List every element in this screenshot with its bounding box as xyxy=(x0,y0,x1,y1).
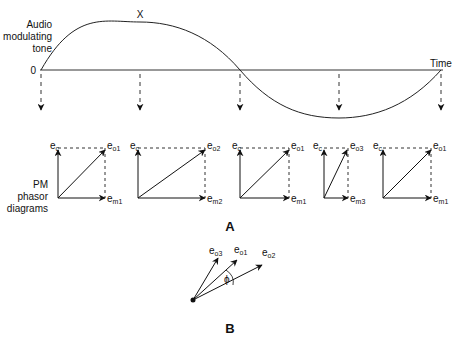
phasor-diagram-1: ec eo1 em1 xyxy=(50,140,122,205)
waveform-label-line-1: Audio xyxy=(26,19,52,30)
pm-phasor-figure: Audio modulating tone 0 Time X PM phasor… xyxy=(0,0,461,343)
phasor-section-label: PM phasor diagrams xyxy=(7,179,49,214)
phasor-diagram-5: ec eo1 em1 xyxy=(373,140,448,205)
phasor-label-line-1: PM xyxy=(33,179,48,190)
svg-text:ec: ec xyxy=(373,140,383,152)
waveform: Audio modulating tone 0 Time X xyxy=(3,9,452,118)
peak-label: X xyxy=(137,9,144,20)
svg-text:eo3: eo3 xyxy=(350,140,363,152)
vector-eo1 xyxy=(193,260,237,300)
waveform-label-line-2: modulating xyxy=(3,31,52,42)
svg-text:em1: em1 xyxy=(291,193,306,205)
svg-text:eo2: eo2 xyxy=(207,140,220,152)
svg-text:eo1: eo1 xyxy=(291,140,304,152)
origin-label: 0 xyxy=(30,65,36,76)
angle-label: ϕ xyxy=(224,274,230,285)
svg-text:ec: ec xyxy=(313,140,323,152)
phasor-diagram-3: ec eo1 em1 xyxy=(232,140,306,205)
waveform-label-line-3: tone xyxy=(33,43,53,54)
svg-text:eo2: eo2 xyxy=(262,247,275,259)
svg-text:eo1: eo1 xyxy=(234,244,247,256)
svg-text:eo1: eo1 xyxy=(107,140,120,152)
origin-point xyxy=(191,298,196,303)
svg-text:em2: em2 xyxy=(207,193,222,205)
phasor-diagram-4: ec eo3 em3 xyxy=(313,140,365,205)
svg-text:ec: ec xyxy=(130,140,140,152)
svg-text:eo3: eo3 xyxy=(209,245,222,257)
phasor-diagram-2: ec eo2 em2 xyxy=(130,140,222,205)
svg-text:em1: em1 xyxy=(433,193,448,205)
phase-diagram-b: ϕ eo3 eo1 eo2 xyxy=(191,244,276,303)
panel-label-b: B xyxy=(225,321,234,336)
phasor-label-line-2: phasor xyxy=(17,191,48,202)
time-label: Time xyxy=(430,58,452,69)
svg-text:em1: em1 xyxy=(107,193,122,205)
svg-text:ec: ec xyxy=(50,140,60,152)
svg-text:em3: em3 xyxy=(350,193,365,205)
panel-label-a: A xyxy=(225,219,235,234)
phasor-label-line-3: diagrams xyxy=(7,203,48,214)
svg-text:eo1: eo1 xyxy=(433,140,446,152)
svg-text:ec: ec xyxy=(232,140,242,152)
